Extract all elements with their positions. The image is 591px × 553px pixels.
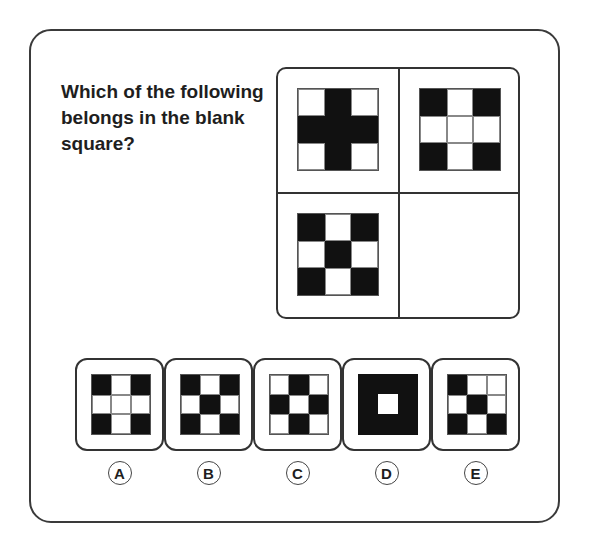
black-square [420,89,447,116]
black-square [325,89,352,116]
black-square [325,241,352,268]
black-square [131,414,150,434]
black-square [473,89,500,116]
grid-cell-bottom-left [297,213,379,296]
black-square [420,143,447,170]
white-square [220,395,239,415]
white-square [298,143,325,170]
white-square [420,116,447,143]
option-e[interactable] [431,358,520,451]
white-square [200,414,219,434]
option-a-label[interactable]: A [108,461,132,485]
black-square [467,395,486,415]
grid-cell-blank [400,194,518,317]
option-labels: A B C D E [75,461,520,487]
question-text: Which of the following belongs in the bl… [61,79,271,157]
black-square [487,414,506,434]
black-square [289,375,308,395]
white-square [200,375,219,395]
white-square [298,241,325,268]
answer-options [75,358,520,451]
option-a[interactable] [75,358,164,451]
option-b-label[interactable]: B [197,461,221,485]
white-square [467,375,486,395]
white-square [270,414,289,434]
option-e-pattern [447,374,507,435]
black-square [325,116,352,143]
white-square [325,214,352,241]
white-square [351,143,378,170]
white-square [289,395,308,415]
option-a-pattern [91,374,151,435]
white-square [270,375,289,395]
white-square [487,375,506,395]
white-square [111,414,130,434]
black-square [351,214,378,241]
matrix-grid [276,67,520,319]
black-square [220,375,239,395]
white-square [325,268,352,295]
white-square [351,89,378,116]
black-square [473,143,500,170]
black-square [325,143,352,170]
grid-cell-top-right [419,88,501,171]
grid-cell-top-left [297,88,379,171]
white-square [298,89,325,116]
white-square [309,375,328,395]
option-d-label[interactable]: D [375,461,399,485]
option-d[interactable] [342,358,431,451]
white-square [111,395,130,415]
white-square [181,395,200,415]
option-e-label[interactable]: E [464,461,488,485]
white-square [467,414,486,434]
option-c-label[interactable]: C [286,461,310,485]
black-square [270,395,289,415]
white-square [351,241,378,268]
option-c-pattern [269,374,329,435]
black-square [309,395,328,415]
black-square [92,414,111,434]
white-square [111,375,130,395]
white-square [131,395,150,415]
black-square [220,414,239,434]
white-square [447,89,474,116]
black-square [181,375,200,395]
white-square [447,143,474,170]
option-c[interactable] [253,358,342,451]
white-square [487,395,506,415]
black-square [200,395,219,415]
option-d-pattern [358,374,418,435]
white-square [309,414,328,434]
black-square [298,268,325,295]
black-square [448,414,467,434]
black-square [298,116,325,143]
black-square [351,116,378,143]
option-b-pattern [180,374,240,435]
black-square [131,375,150,395]
white-square [92,395,111,415]
black-square [298,214,325,241]
white-square [447,116,474,143]
white-square [448,395,467,415]
option-b[interactable] [164,358,253,451]
black-square [289,414,308,434]
black-square [448,375,467,395]
black-square [92,375,111,395]
white-square [473,116,500,143]
black-square [181,414,200,434]
option-d-center-hole [378,394,398,414]
black-square [351,268,378,295]
